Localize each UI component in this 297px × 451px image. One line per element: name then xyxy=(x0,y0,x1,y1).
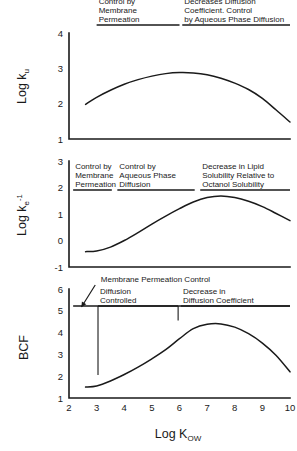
ylabel-top: Log ku xyxy=(15,69,31,104)
ylabel-middle: Log ke-1 xyxy=(15,194,31,236)
ytick-middle-0: -1 xyxy=(55,262,63,273)
annotation-text-bottom-2-1: Diffusion Coefficient xyxy=(183,296,255,305)
annotation-text-middle-0-1: Membrane xyxy=(75,171,114,180)
annotation-text-top-1-2: Coefficient. Control xyxy=(184,6,252,15)
annotation-text-middle-0-0: Control by xyxy=(75,162,111,171)
annotation-text-top-1-1: Decreases Diffusion xyxy=(184,0,255,6)
annotation-callout-bottom: Membrane Permeation Control xyxy=(101,275,211,284)
xtick-5: 7 xyxy=(204,402,209,413)
annotation-text-bottom-1-1: Controlled xyxy=(100,296,136,305)
ytick-bottom-1: 2 xyxy=(58,371,63,382)
curve-top xyxy=(86,73,290,123)
xtick-6: 8 xyxy=(232,402,237,413)
annotation-text-middle-2-0: Decrease in Lipid xyxy=(202,162,264,171)
annotation-text-middle-1-2: Diffusion xyxy=(119,180,150,189)
xtick-1: 3 xyxy=(94,402,99,413)
annotation-text-middle-2-1: Solubility Relative to xyxy=(202,171,275,180)
annotation-text-top-0-1: Membrane xyxy=(99,6,138,15)
annotation-text-middle-2-2: Octanol Solubility xyxy=(202,180,264,189)
xtick-3: 5 xyxy=(149,402,154,413)
ytick-top-1: 2 xyxy=(58,98,63,109)
axis-top xyxy=(69,33,290,139)
xtick-0: 2 xyxy=(66,402,71,413)
xtick-7: 9 xyxy=(260,402,265,413)
annotation-text-top-1-3: by Aqueous Phase Diffusion xyxy=(184,15,284,24)
ytick-middle-3: 2 xyxy=(58,182,63,193)
annotation-text-middle-1-1: Aqueous Phase xyxy=(119,171,176,180)
ytick-middle-1: 0 xyxy=(58,235,63,246)
ytick-top-2: 3 xyxy=(58,63,63,74)
xtick-8: 10 xyxy=(285,402,296,413)
ytick-top-3: 4 xyxy=(58,28,63,39)
xtick-4: 6 xyxy=(177,402,182,413)
ytick-middle-4: 3 xyxy=(58,156,63,167)
three-panel-bioconcentration-figure: 1234Log kuControl byMembranePermeationIn… xyxy=(0,0,297,451)
ytick-bottom-0: 1 xyxy=(58,393,63,404)
figure-container: 1234Log kuControl byMembranePermeationIn… xyxy=(0,0,297,451)
curve-middle xyxy=(86,196,290,252)
ytick-middle-2: 1 xyxy=(58,209,63,220)
annotation-text-top-0-0: Control by xyxy=(99,0,135,6)
ytick-bottom-3: 4 xyxy=(58,327,63,338)
ytick-bottom-2: 3 xyxy=(58,349,63,360)
xtick-2: 4 xyxy=(122,402,127,413)
ytick-top-0: 1 xyxy=(58,134,63,145)
annotation-text-bottom-2-0: Decrease in xyxy=(183,287,226,296)
ytick-bottom-4: 5 xyxy=(58,305,63,316)
ytick-bottom-5: 6 xyxy=(58,284,63,295)
annotation-text-bottom-1-0: Diffusion xyxy=(100,287,131,296)
xaxis-title: Log KOW xyxy=(155,427,202,443)
ylabel-bottom: BCF xyxy=(17,335,31,360)
annotation-text-top-0-2: Permeation xyxy=(99,15,140,24)
annotation-text-middle-0-2: Permeation xyxy=(75,180,116,189)
annotation-text-middle-1-0: Control by xyxy=(119,162,155,171)
curve-bottom xyxy=(86,324,290,387)
